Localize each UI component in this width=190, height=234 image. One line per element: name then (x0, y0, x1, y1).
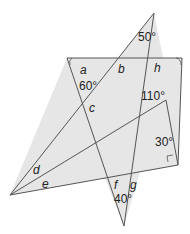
angle-30-label: 30° (155, 135, 173, 149)
angle-c-label: c (89, 101, 95, 115)
angle-g-label: g (130, 178, 137, 192)
angle-d-label: d (33, 163, 40, 177)
angle-40-label: 40° (114, 192, 132, 206)
angle-h-label: h (154, 61, 161, 75)
angle-e-label: e (42, 177, 49, 191)
shaded-regions (10, 13, 182, 226)
angle-60-label: 60° (79, 79, 97, 93)
angle-50-label: 50° (138, 30, 156, 44)
geometry-diagram: 50° a b h 60° 110° c 30° d e f g 40° (0, 0, 190, 234)
angle-a-label: a (80, 63, 87, 77)
angle-110-label: 110° (141, 89, 165, 103)
angle-b-label: b (118, 62, 125, 76)
